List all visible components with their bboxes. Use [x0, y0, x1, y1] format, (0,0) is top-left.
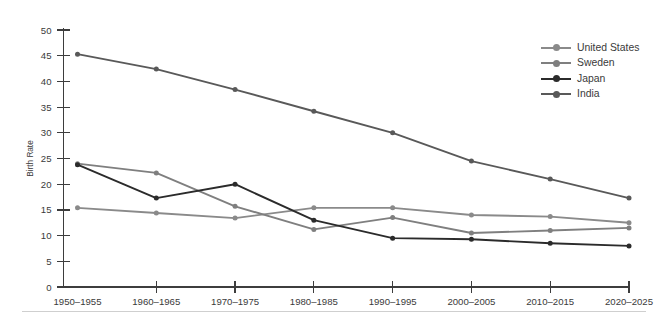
y-tick-label: 25: [41, 153, 52, 164]
legend-label: Japan: [577, 74, 605, 84]
y-tick-label: 40: [41, 76, 52, 87]
y-axis-group: 05101520253035404550 Birth Rate: [26, 25, 70, 293]
data-point: [390, 215, 395, 220]
data-point: [548, 177, 553, 182]
data-point: [233, 216, 238, 221]
data-point: [548, 228, 553, 233]
data-point: [390, 236, 395, 241]
x-tick-label: 1990–1995: [369, 296, 417, 307]
data-point: [469, 213, 474, 218]
legend-item-india[interactable]: India: [541, 87, 665, 103]
x-axis-group: 1950–19551960–19651970–19751980–19851990…: [53, 281, 653, 307]
series-united-states: [75, 205, 632, 225]
chart-legend: United StatesSwedenJapanIndia: [541, 40, 665, 102]
data-point: [154, 210, 159, 215]
data-point: [627, 220, 632, 225]
birth-rate-line-chart: 05101520253035404550 Birth Rate 1950–195…: [0, 0, 668, 320]
data-point: [154, 67, 159, 72]
y-tick-label: 5: [46, 256, 51, 267]
x-tick-label: 1970–1975: [211, 296, 259, 307]
y-axis-title: Birth Rate: [26, 140, 35, 177]
y-tick-label-group: 05101520253035404550: [41, 25, 52, 293]
legend-dot: [553, 44, 560, 51]
legend-swatch-icon: [541, 89, 571, 100]
x-tick-label: 1950–1955: [53, 296, 101, 307]
legend-item-sweden[interactable]: Sweden: [541, 56, 665, 72]
legend-swatch-icon: [541, 42, 571, 53]
data-point: [75, 52, 80, 57]
data-point: [627, 243, 632, 248]
legend-label: India: [577, 89, 600, 99]
series-line: [78, 208, 630, 223]
data-point: [390, 130, 395, 135]
series-japan: [75, 162, 632, 248]
y-tick-label: 15: [41, 204, 52, 215]
data-point: [233, 87, 238, 92]
data-point: [311, 205, 316, 210]
data-point: [469, 159, 474, 164]
legend-dot: [553, 60, 560, 67]
y-tick-label: 50: [41, 25, 52, 36]
data-point: [469, 237, 474, 242]
x-tick-label: 1960–1965: [132, 296, 180, 307]
y-tick-label: 30: [41, 127, 52, 138]
data-point: [154, 196, 159, 201]
data-point: [233, 204, 238, 209]
x-tick-label: 2020–2025: [605, 296, 653, 307]
data-point: [627, 196, 632, 201]
legend-item-japan[interactable]: Japan: [541, 71, 665, 87]
y-tick-label: 0: [46, 282, 51, 293]
legend-swatch-icon: [541, 58, 571, 69]
data-point: [548, 214, 553, 219]
x-tick-label: 2010–2015: [526, 296, 574, 307]
data-point: [548, 241, 553, 246]
data-point: [627, 225, 632, 230]
legend-item-united-states[interactable]: United States: [541, 40, 665, 56]
legend-dot: [553, 91, 560, 98]
data-point: [311, 218, 316, 223]
x-tick-label: 2000–2005: [447, 296, 495, 307]
legend-swatch-icon: [541, 73, 571, 84]
legend-label: Sweden: [577, 58, 615, 68]
series-line: [78, 165, 630, 246]
data-point: [75, 205, 80, 210]
y-tick-label: 45: [41, 50, 52, 61]
y-tick-label: 35: [41, 102, 52, 113]
y-tick-label: 20: [41, 179, 52, 190]
footer-divider: [22, 311, 646, 312]
data-point: [233, 182, 238, 187]
data-point: [469, 231, 474, 236]
data-point: [390, 205, 395, 210]
legend-dot: [553, 75, 560, 82]
x-tick-label: 1980–1985: [290, 296, 338, 307]
data-point: [311, 109, 316, 114]
legend-label: United States: [577, 43, 639, 53]
data-point: [154, 170, 159, 175]
y-tick-label: 10: [41, 230, 52, 241]
data-point: [311, 227, 316, 232]
data-point: [75, 162, 80, 167]
x-tick-label-group: 1950–19551960–19651970–19751980–19851990…: [53, 296, 653, 307]
